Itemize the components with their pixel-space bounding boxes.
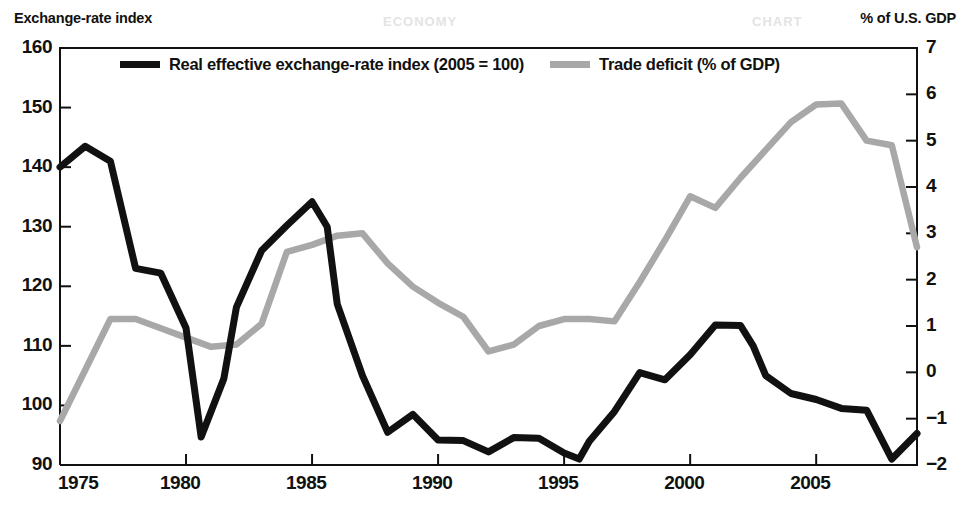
y2-tick-label-neg2: −2 <box>926 453 947 475</box>
legend-swatch-grey-icon <box>550 61 590 68</box>
legend-swatch-black-icon <box>120 61 160 68</box>
x-tick-label-1975: 1975 <box>58 472 98 494</box>
y2-tick-label-7: 7 <box>926 36 936 58</box>
legend-label-trade-deficit: Trade deficit (% of GDP) <box>599 55 780 74</box>
legend-label-exchange-rate: Real effective exchange-rate index (2005… <box>169 55 524 74</box>
y2-tick-label-1: 1 <box>926 314 936 336</box>
series-line-exchange-rate <box>60 146 917 459</box>
x-tick-label-1995: 1995 <box>538 472 578 494</box>
legend-entry-trade-deficit: Trade deficit (% of GDP) <box>550 55 780 74</box>
chart-legend: Real effective exchange-rate index (2005… <box>120 55 780 74</box>
y2-tick-label-2: 2 <box>926 268 936 290</box>
y-tick-label-130: 130 <box>4 215 52 237</box>
y-tick-label-160: 160 <box>4 36 52 58</box>
axis-frame <box>60 48 917 465</box>
x-tick-label-2005: 2005 <box>790 472 830 494</box>
chart-figure: Exchange-rate index % of U.S. GDP ECONOM… <box>0 0 968 508</box>
x-tick-label-2000: 2000 <box>664 472 704 494</box>
x-tick-label-1980: 1980 <box>160 472 200 494</box>
right-axis-ticks <box>906 94 917 418</box>
left-axis-ticks <box>60 108 71 406</box>
y-tick-label-120: 120 <box>4 274 52 296</box>
plot-area <box>0 0 968 508</box>
y2-tick-label-4: 4 <box>926 175 936 197</box>
y2-tick-label-6: 6 <box>926 82 936 104</box>
x-axis-ticks <box>186 454 816 465</box>
y-tick-label-150: 150 <box>4 96 52 118</box>
y2-tick-label-0: 0 <box>926 360 936 382</box>
legend-entry-exchange-rate: Real effective exchange-rate index (2005… <box>120 55 524 74</box>
x-tick-label-1985: 1985 <box>286 472 326 494</box>
y2-tick-label-5: 5 <box>926 129 936 151</box>
series-line-trade-deficit <box>60 104 917 421</box>
y-tick-label-110: 110 <box>4 334 52 356</box>
x-tick-label-1990: 1990 <box>412 472 452 494</box>
y-tick-label-100: 100 <box>4 393 52 415</box>
y-tick-label-140: 140 <box>4 155 52 177</box>
y2-tick-label-neg1: −1 <box>926 407 947 429</box>
y-tick-label-90: 90 <box>4 453 52 475</box>
y2-tick-label-3: 3 <box>926 221 936 243</box>
